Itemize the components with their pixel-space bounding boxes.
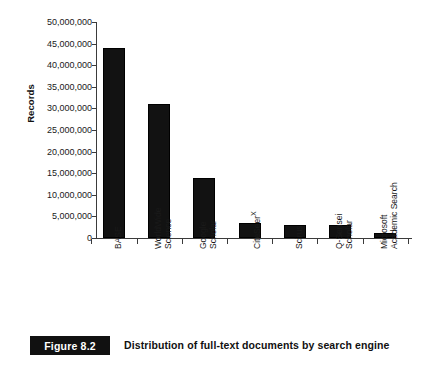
y-axis-tick-label: 5,000,000 [20, 211, 92, 221]
x-axis-tick-mark [182, 239, 183, 244]
y-axis-tick-label: 20,000,000 [20, 147, 92, 157]
x-axis-tick-mark [272, 239, 273, 244]
y-axis-tick-label: 15,000,000 [20, 168, 92, 178]
figure-container: Records 05,000,00010,000,00015,000,00020… [0, 0, 435, 374]
x-axis-tick-mark [317, 239, 318, 244]
figure-caption-row: Figure 8.2 Distribution of full-text doc… [0, 336, 435, 358]
bar-chart: Records 05,000,00010,000,00015,000,00020… [0, 0, 435, 320]
y-axis-tick-label: 35,000,000 [20, 82, 92, 92]
x-axis-tick-mark [91, 239, 92, 244]
y-axis-tick-label: 25,000,000 [20, 125, 92, 135]
y-axis-line [96, 22, 97, 239]
x-axis-tick-mark [363, 239, 364, 244]
x-axis-tick-mark [137, 239, 138, 244]
x-axis-tick-mark [408, 239, 409, 244]
y-axis-tick-label: 50,000,000 [20, 17, 92, 27]
y-axis-tick-label: 0 [20, 233, 92, 243]
y-axis-tick-label: 45,000,000 [20, 39, 92, 49]
figure-number-badge: Figure 8.2 [30, 336, 110, 355]
bar [103, 48, 125, 238]
x-axis-tick-mark [227, 239, 228, 244]
y-axis-tick-label: 10,000,000 [20, 190, 92, 200]
y-axis-tick-label: 30,000,000 [20, 103, 92, 113]
y-axis-tick-label: 40,000,000 [20, 60, 92, 70]
figure-caption-text: Distribution of full-text documents by s… [124, 339, 389, 351]
